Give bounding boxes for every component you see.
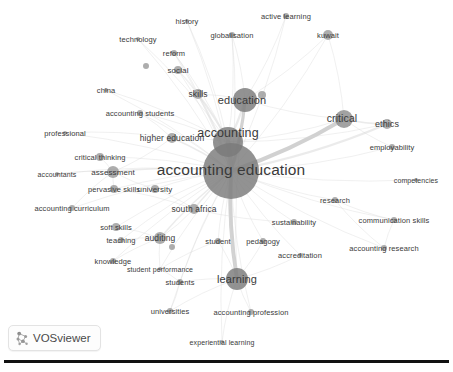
graph-node[interactable] — [136, 37, 140, 41]
graph-node[interactable] — [167, 308, 173, 314]
graph-node[interactable] — [213, 127, 243, 157]
graph-node[interactable] — [260, 238, 266, 244]
graph-node[interactable] — [389, 144, 395, 150]
graph-edge — [113, 138, 172, 172]
graph-node[interactable] — [323, 30, 333, 40]
graph-node[interactable] — [169, 244, 175, 250]
vosviewer-badge[interactable]: VOSviewer — [8, 325, 101, 351]
graph-node[interactable] — [143, 63, 149, 69]
vosviewer-badge-label: VOSviewer — [33, 332, 91, 344]
graph-edge — [245, 35, 328, 100]
graph-node[interactable] — [167, 133, 177, 143]
graph-node[interactable] — [414, 178, 418, 182]
graph-node[interactable] — [391, 217, 397, 223]
graph-node[interactable] — [215, 238, 221, 244]
graph-edge — [57, 171, 113, 174]
graph-node[interactable] — [177, 279, 183, 285]
graph-node[interactable] — [291, 219, 297, 225]
graph-node[interactable] — [110, 185, 118, 193]
graph-edge — [160, 241, 218, 269]
graph-node[interactable] — [258, 91, 266, 99]
graph-node[interactable] — [382, 119, 392, 129]
graph-node[interactable] — [298, 253, 302, 257]
graph-node[interactable] — [229, 32, 235, 38]
network-graph-canvas[interactable] — [0, 0, 453, 372]
graph-edge — [72, 172, 113, 208]
graph-node[interactable] — [381, 245, 387, 251]
graph-node[interactable] — [63, 131, 67, 135]
graph-edge — [384, 220, 394, 248]
graph-edge — [328, 35, 344, 119]
graph-node[interactable] — [112, 223, 120, 231]
graph-edge — [335, 200, 384, 248]
graph-node[interactable] — [233, 88, 257, 112]
node-layer[interactable] — [55, 13, 418, 344]
graph-node[interactable] — [154, 232, 166, 244]
graph-node[interactable] — [96, 153, 104, 161]
graph-node[interactable] — [107, 166, 119, 178]
vosviewer-logo-icon — [15, 331, 29, 346]
graph-node[interactable] — [171, 50, 177, 56]
graph-node[interactable] — [193, 89, 203, 99]
graph-node[interactable] — [332, 197, 338, 203]
graph-node[interactable] — [55, 172, 59, 176]
graph-node[interactable] — [137, 110, 143, 116]
graph-node[interactable] — [226, 268, 248, 290]
bottom-divider — [4, 360, 449, 363]
graph-node[interactable] — [174, 66, 182, 74]
graph-node[interactable] — [151, 185, 159, 193]
graph-edge — [228, 35, 233, 142]
graph-edge — [160, 269, 180, 282]
graph-node[interactable] — [69, 205, 75, 211]
graph-node[interactable] — [104, 88, 108, 92]
graph-node[interactable] — [220, 340, 224, 344]
vosviewer-network-map[interactable]: accounting educationaccountingeducationl… — [0, 0, 453, 372]
graph-edge — [116, 227, 160, 238]
graph-node[interactable] — [110, 258, 116, 264]
graph-node[interactable] — [118, 237, 124, 243]
graph-node[interactable] — [283, 13, 289, 19]
graph-node[interactable] — [335, 110, 353, 128]
graph-node[interactable] — [158, 267, 162, 271]
graph-node[interactable] — [185, 19, 189, 23]
graph-node[interactable] — [248, 309, 254, 315]
graph-node[interactable] — [189, 204, 199, 214]
